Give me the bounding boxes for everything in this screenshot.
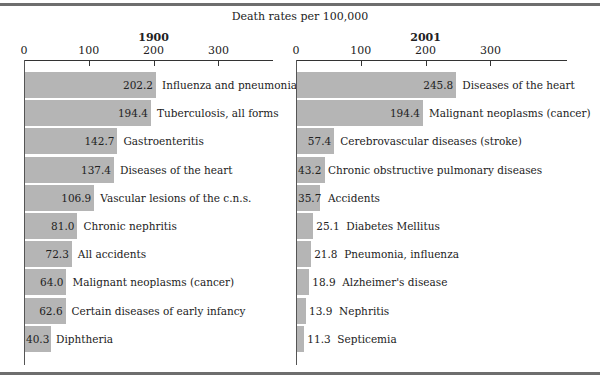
x-axis-line (296, 60, 567, 61)
bar (297, 269, 309, 295)
category-label: Diabetes Mellitus (346, 213, 440, 239)
category-label: Pneumonia, influenza (344, 241, 459, 267)
x-tick-label: 300 (480, 44, 501, 57)
x-tick-label: 0 (293, 44, 300, 57)
category-label: Chronic obstructive pulmonary diseases (328, 157, 542, 183)
value-label: 18.9 (312, 269, 335, 295)
bar (297, 326, 304, 352)
bar (297, 241, 311, 267)
value-label: 11.3 (307, 326, 330, 352)
chart-panel-2001: 20010100200300245.8Diseases of the heart… (0, 0, 600, 378)
x-tick-label: 100 (350, 44, 371, 57)
category-label: Diseases of the heart (462, 72, 575, 98)
category-label: Alzheimer's disease (342, 269, 447, 295)
category-label: Cerebrovascular diseases (stroke) (340, 128, 522, 154)
value-label: 13.9 (309, 298, 332, 324)
category-label: Malignant neoplasms (cancer) (429, 100, 591, 126)
x-tick (361, 60, 362, 66)
value-label: 194.4 (390, 100, 420, 126)
category-label: Nephritis (339, 298, 389, 324)
bottom-rule (0, 372, 600, 375)
value-label: 35.7 (298, 185, 321, 211)
value-label: 25.1 (316, 213, 339, 239)
category-label: Septicemia (337, 326, 396, 352)
category-label: Accidents (328, 185, 380, 211)
value-label: 245.8 (423, 72, 453, 98)
x-tick (490, 60, 491, 66)
bar (297, 298, 306, 324)
value-label: 43.2 (298, 157, 321, 183)
value-label: 57.4 (308, 128, 331, 154)
value-label: 21.8 (314, 241, 337, 267)
x-tick-label: 200 (415, 44, 436, 57)
bar (297, 213, 313, 239)
panel-title: 2001 (410, 31, 441, 44)
x-tick (426, 60, 427, 66)
